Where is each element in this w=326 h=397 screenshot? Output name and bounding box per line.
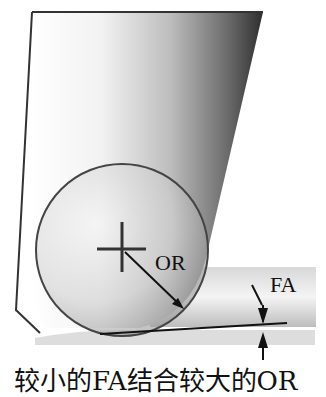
contact-shadow bbox=[35, 330, 315, 345]
label-or: OR bbox=[155, 250, 186, 275]
label-fa: FA bbox=[270, 272, 297, 297]
caption: 较小的FA结合较大的OR bbox=[14, 360, 297, 397]
